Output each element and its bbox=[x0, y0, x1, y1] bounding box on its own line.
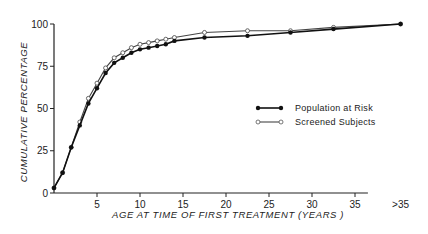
legend-item-population-at-risk: Population at Risk bbox=[256, 103, 373, 113]
filled-circle-marker-icon bbox=[245, 34, 249, 38]
chart-svg: 02550751005101520253035>35 Population at… bbox=[0, 0, 428, 234]
filled-circle-marker-icon bbox=[138, 47, 142, 51]
filled-circle-marker-icon bbox=[121, 56, 125, 60]
open-circle-marker-icon bbox=[164, 37, 168, 41]
filled-circle-marker-icon bbox=[78, 123, 82, 127]
filled-circle-marker-icon bbox=[129, 51, 133, 55]
open-circle-marker-icon bbox=[138, 42, 142, 46]
filled-circle-marker-icon bbox=[112, 61, 116, 65]
filled-circle-marker-icon bbox=[279, 106, 283, 110]
open-circle-marker-icon bbox=[147, 41, 151, 45]
y-tick-label: 100 bbox=[31, 19, 48, 30]
legend-label-population-at-risk: Population at Risk bbox=[295, 103, 373, 113]
filled-circle-marker-icon bbox=[256, 106, 260, 110]
open-circle-marker-icon bbox=[112, 56, 116, 60]
filled-circle-marker-icon bbox=[69, 145, 73, 149]
axes: 02550751005101520253035>35 bbox=[31, 19, 409, 211]
x-tick-label: 5 bbox=[94, 199, 100, 210]
filled-circle-marker-icon bbox=[155, 44, 159, 48]
legend-item-screened-subjects: Screened Subjects bbox=[256, 117, 376, 127]
open-circle-marker-icon bbox=[279, 120, 283, 124]
open-circle-marker-icon bbox=[203, 30, 207, 34]
open-circle-marker-icon bbox=[256, 120, 260, 124]
filled-circle-marker-icon bbox=[202, 35, 206, 39]
open-circle-marker-icon bbox=[246, 29, 250, 33]
open-circle-marker-icon bbox=[104, 66, 108, 70]
legend-label-screened-subjects: Screened Subjects bbox=[295, 117, 376, 127]
filled-circle-marker-icon bbox=[103, 71, 107, 75]
filled-circle-marker-icon bbox=[95, 86, 99, 90]
y-tick-label: 25 bbox=[37, 145, 49, 156]
filled-circle-marker-icon bbox=[398, 22, 402, 26]
y-tick-label: 50 bbox=[37, 103, 49, 114]
filled-circle-marker-icon bbox=[60, 171, 64, 175]
filled-circle-marker-icon bbox=[331, 27, 335, 31]
legend: Population at Risk Screened Subjects bbox=[256, 103, 376, 127]
x-tick-label: >35 bbox=[392, 199, 409, 210]
open-circle-marker-icon bbox=[155, 39, 159, 43]
filled-circle-marker-icon bbox=[86, 101, 90, 105]
open-circle-marker-icon bbox=[121, 51, 125, 55]
filled-circle-marker-icon bbox=[52, 186, 56, 190]
y-axis-label: CUMULATIVE PERCENTAGE bbox=[18, 42, 29, 183]
y-tick-label: 0 bbox=[42, 188, 48, 199]
filled-circle-marker-icon bbox=[146, 45, 150, 49]
x-axis-label: AGE AT TIME OF FIRST TREATMENT (YEARS ) bbox=[111, 209, 344, 220]
filled-circle-marker-icon bbox=[172, 39, 176, 43]
open-circle-marker-icon bbox=[129, 46, 133, 50]
filled-circle-marker-icon bbox=[164, 42, 168, 46]
x-tick-label: 35 bbox=[349, 199, 361, 210]
filled-circle-marker-icon bbox=[288, 30, 292, 34]
cumulative-percentage-chart: 02550751005101520253035>35 Population at… bbox=[0, 0, 428, 234]
y-tick-label: 75 bbox=[37, 61, 49, 72]
